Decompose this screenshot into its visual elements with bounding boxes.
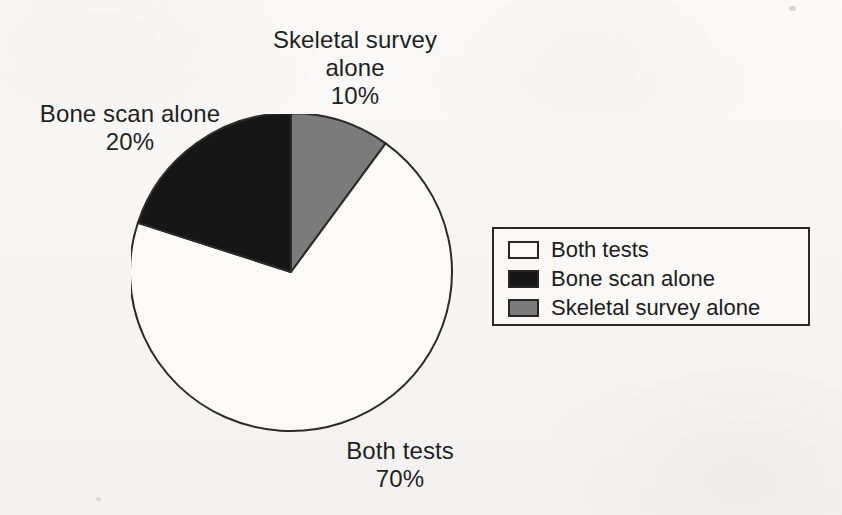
legend-label-both-tests: Both tests: [551, 239, 649, 261]
callout-both-value: 70%: [300, 465, 500, 493]
legend-swatch-both-tests: [508, 241, 539, 259]
scan-speck: [789, 6, 796, 11]
callout-skeletal-value: 10%: [255, 82, 455, 110]
legend-swatch-bone-scan-alone: [508, 270, 539, 288]
legend-label-bone-scan-alone: Bone scan alone: [551, 268, 715, 290]
callout-both-tests: Both tests 70%: [300, 437, 500, 493]
callout-both-line1: Both tests: [300, 437, 500, 465]
legend-swatch-skeletal-survey-alone: [508, 299, 539, 317]
legend-label-skeletal-survey-alone: Skeletal survey alone: [551, 297, 760, 319]
callout-skeletal-survey: Skeletal survey alone 10%: [255, 26, 455, 109]
callout-skeletal-line2: alone: [255, 54, 455, 82]
pie-chart-svg: [131, 114, 455, 434]
legend-item-both-tests[interactable]: Both tests: [508, 235, 808, 264]
chart-page: Skeletal survey alone 10% Bone scan alon…: [0, 0, 842, 515]
callout-skeletal-line1: Skeletal survey: [255, 26, 455, 54]
legend-item-skeletal-survey-alone[interactable]: Skeletal survey alone: [508, 293, 808, 322]
chart-legend: Both tests Bone scan alone Skeletal surv…: [492, 227, 810, 326]
pie-chart: [131, 114, 455, 434]
legend-item-bone-scan-alone[interactable]: Bone scan alone: [508, 264, 808, 293]
scan-speck: [96, 497, 101, 501]
